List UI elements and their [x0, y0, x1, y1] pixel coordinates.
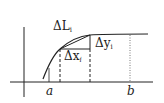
- label-delta-L: ΔLi: [53, 19, 73, 34]
- label-a: a: [46, 84, 53, 98]
- chord-delta-L: [60, 35, 90, 49]
- label-delta-y: Δyi: [95, 36, 113, 51]
- arc-length-diagram: ΔLi Δxi Δyi a b: [0, 0, 164, 103]
- label-delta-x: Δxi: [64, 49, 82, 64]
- label-b: b: [127, 84, 135, 98]
